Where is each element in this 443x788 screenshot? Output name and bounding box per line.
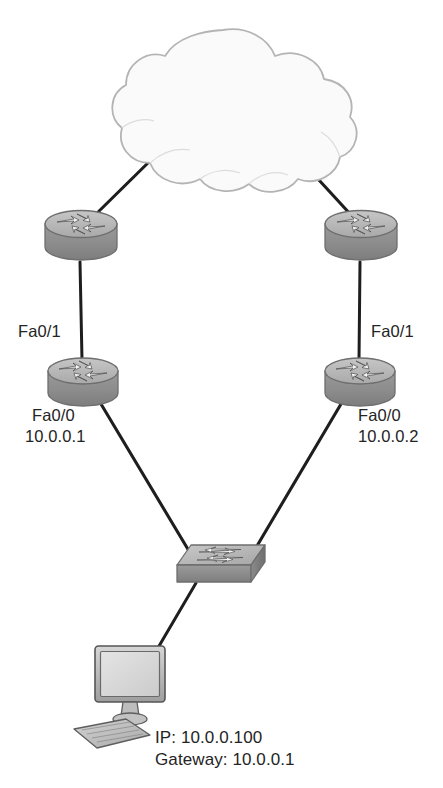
router-icon [48, 358, 118, 406]
label-right-router-lan-ip: 10.0.0.2 [358, 426, 418, 447]
monitor-icon [95, 646, 165, 725]
workstation-icon [74, 646, 165, 748]
link-router-left-to-switch [101, 404, 192, 556]
router-icon [325, 211, 397, 261]
label-right-router-uplink-interface: Fa0/1 [371, 321, 414, 342]
label-host-ip: IP: 10.0.0.100 [155, 727, 262, 749]
label-host-gateway: Gateway: 10.0.0.1 [155, 749, 295, 771]
label-left-router-lan-ip: 10.0.0.1 [25, 426, 85, 447]
link-router-top-left-to-router-left [80, 262, 82, 360]
router-icon [45, 211, 117, 261]
diagram-canvas [0, 0, 443, 788]
label-left-router-uplink-interface: Fa0/1 [18, 321, 61, 342]
link-cloud-to-router-top-left [92, 157, 154, 218]
link-router-right-to-switch [251, 404, 341, 556]
cloud-icon [112, 29, 356, 192]
label-right-router-lan-interface: Fa0/0 [358, 405, 401, 426]
router-icon [325, 358, 395, 406]
label-left-router-lan-interface: Fa0/0 [32, 405, 75, 426]
network-topology-diagram: Fa0/1 Fa0/0 10.0.0.1 Fa0/1 Fa0/0 10.0.0.… [0, 0, 443, 788]
switch-icon [177, 545, 265, 582]
link-router-top-right-to-router-right [359, 262, 360, 360]
